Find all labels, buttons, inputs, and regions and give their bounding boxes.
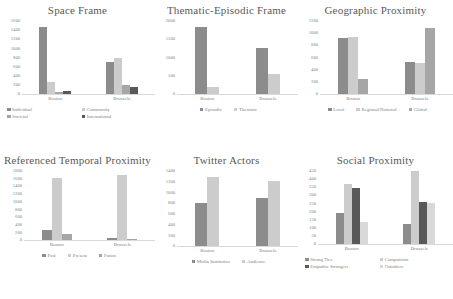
x-tick-label: Brussels — [90, 242, 156, 247]
y-tick-label: 1000 — [166, 190, 175, 195]
x-axis: BostonBrussels — [155, 96, 298, 101]
chart-legend: Media InstitutionAudience — [155, 258, 298, 265]
chart-grid: Space Frame16001400120010008006004002000… — [0, 0, 453, 299]
chart-title: Space Frame — [3, 4, 152, 16]
x-tick-label: Brussels — [89, 96, 156, 101]
plot-area: 120010008006004002000 — [298, 17, 453, 95]
bar — [425, 28, 435, 94]
x-tick-labels: BostonBrussels — [318, 246, 453, 251]
x-axis: BostonBrussels — [298, 246, 453, 251]
legend-item[interactable]: Empathic Strangers — [301, 263, 375, 270]
y-tick-label: 250 — [309, 201, 316, 206]
legend-item[interactable]: Societal — [3, 113, 77, 120]
legend-swatch-icon — [7, 115, 10, 118]
legend-label: Strong Ties — [310, 256, 332, 263]
chart-legend: EpisodicThematic — [155, 106, 298, 113]
y-axis: 120010008006004002000 — [298, 17, 320, 95]
bar — [122, 85, 130, 94]
legend-item[interactable]: Future — [95, 252, 117, 259]
legend-item[interactable]: Individual — [3, 106, 77, 113]
bar — [130, 87, 138, 94]
y-tick-label: 1400 — [13, 184, 22, 189]
legend-label: Media Institution — [197, 258, 230, 265]
legend-item[interactable]: Regional/National — [352, 106, 396, 113]
y-tick-label: 1200 — [166, 179, 175, 184]
legend-item[interactable]: Audience — [238, 258, 266, 265]
legend-item[interactable]: International — [78, 113, 152, 120]
legend-item[interactable]: Local — [324, 106, 344, 113]
legend-swatch-icon — [68, 254, 71, 257]
legend-label: Societal — [12, 113, 27, 120]
legend-label: Community — [87, 106, 110, 113]
y-axis: 2000150010005000 — [155, 17, 177, 95]
legend-item[interactable]: Global — [405, 106, 427, 113]
bar — [268, 181, 280, 246]
y-tick-label: 200 — [168, 233, 175, 238]
legend-swatch-icon — [200, 108, 203, 111]
y-axis: 16001400120010008006004002000 — [0, 17, 22, 95]
legend-swatch-icon — [242, 260, 245, 263]
bar — [427, 203, 435, 244]
plot-bars — [320, 17, 453, 95]
y-tick-label: 2000 — [166, 19, 175, 24]
legend-swatch-icon — [328, 108, 331, 111]
bar-group — [177, 17, 238, 94]
chart-title: Social Proximity — [301, 154, 450, 166]
y-tick-label: 600 — [168, 212, 175, 217]
legend-item[interactable]: Strong Ties — [301, 256, 375, 263]
plot-bars — [22, 17, 155, 95]
legend-item[interactable]: Compatriots — [376, 256, 450, 263]
plot-area: 180016001400120010008006004002000 — [0, 167, 155, 241]
y-tick-label: 1600 — [13, 176, 22, 181]
y-tick-label: 400 — [168, 222, 175, 227]
y-tick-label: 1500 — [166, 37, 175, 42]
y-axis: 450400350300250200150100500 — [298, 167, 318, 245]
legend-swatch-icon — [305, 258, 308, 261]
bar — [52, 178, 62, 240]
x-tick-label: Boston — [22, 96, 89, 101]
y-tick-label: 1200 — [309, 19, 318, 24]
legend-item[interactable]: Community — [78, 106, 152, 113]
bar — [415, 63, 425, 94]
y-tick-label: 800 — [13, 55, 20, 60]
legend-item[interactable]: Outsiders — [376, 263, 450, 270]
chart-title: Geographic Proximity — [301, 4, 450, 16]
x-axis: BostonBrussels — [298, 96, 453, 101]
plot-area: 450400350300250200150100500 — [298, 167, 453, 245]
legend-swatch-icon — [82, 115, 85, 118]
legend-item[interactable]: Present — [64, 252, 87, 259]
x-axis-spacer — [0, 96, 22, 101]
bar — [348, 37, 358, 94]
y-tick-label: 500 — [168, 74, 175, 79]
legend-item[interactable]: Past — [38, 252, 55, 259]
chart-title: Thematic-Episodic Frame — [158, 4, 295, 16]
x-tick-label: Brussels — [386, 246, 453, 251]
bar — [405, 62, 415, 94]
legend-item[interactable]: Episodic — [196, 106, 222, 113]
x-tick-labels: BostonBrussels — [320, 96, 453, 101]
legend-item[interactable]: Media Institution — [188, 258, 230, 265]
legend-label: Global — [414, 106, 427, 113]
chart-title: Twitter Actors — [158, 154, 295, 166]
bar — [403, 224, 411, 244]
x-axis-spacer — [298, 96, 320, 101]
bar-group — [238, 17, 299, 94]
bar — [42, 230, 52, 240]
x-axis: BostonBrussels — [0, 242, 155, 247]
legend-label: Episodic — [205, 106, 222, 113]
bar — [256, 198, 268, 246]
y-tick-label: 0 — [20, 238, 22, 243]
legend-swatch-icon — [42, 254, 45, 257]
bar-group — [320, 17, 387, 94]
bar — [360, 222, 368, 244]
chart-legend: IndividualCommunitySocietalInternational — [0, 106, 155, 120]
x-axis-spacer — [155, 96, 177, 101]
legend-swatch-icon — [82, 108, 85, 111]
y-tick-label: 450 — [309, 169, 316, 174]
y-tick-label: 300 — [309, 193, 316, 198]
bar — [195, 27, 207, 94]
y-tick-label: 1200 — [13, 192, 22, 197]
bar — [106, 62, 114, 94]
legend-item[interactable]: Thematic — [230, 106, 257, 113]
bar — [117, 175, 127, 240]
